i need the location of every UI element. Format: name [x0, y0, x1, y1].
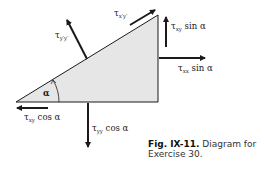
label-tau-xy-sin: τxy sin α	[171, 21, 206, 33]
label-tau-xprime-yprime: τx′y′	[114, 8, 128, 20]
label-tau-xy-cos: τxy cos α	[24, 112, 61, 124]
label-tau-yprime-yprime: τy′y′	[55, 30, 69, 42]
figure-caption: Fig. IX-11. Diagram for Exercise 30.	[148, 139, 266, 159]
caption-label: Fig. IX-11.	[148, 139, 199, 149]
label-tau-xx-sin: τxx sin α	[178, 63, 213, 74]
arrow-tau-yprime-yprime	[67, 20, 87, 59]
angle-alpha-label: α	[43, 88, 50, 98]
label-tau-yy-cos: τyy cos α	[92, 123, 129, 135]
